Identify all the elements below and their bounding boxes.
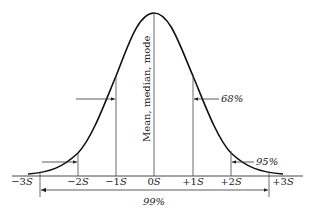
center-label: Mean, median, mode	[141, 35, 152, 142]
svg-text:+2S: +2S	[220, 176, 242, 187]
svg-text:−2S: −2S	[67, 176, 89, 187]
normal-distribution-diagram: 68% 95% 99% −3S −2S −1S 0S +1S +2S +3S M…	[0, 0, 312, 214]
label-68: 68%	[221, 93, 243, 104]
svg-text:+3S: +3S	[272, 176, 294, 187]
svg-text:+1S: +1S	[182, 176, 204, 187]
svg-text:−1S: −1S	[105, 176, 127, 187]
label-99: 99%	[143, 196, 165, 207]
tick-labels: −3S −2S −1S 0S +1S +2S +3S	[11, 176, 294, 187]
label-95: 95%	[256, 156, 278, 167]
svg-text:0S: 0S	[147, 176, 160, 187]
svg-text:−3S: −3S	[11, 176, 33, 187]
bell-curve	[28, 13, 283, 174]
